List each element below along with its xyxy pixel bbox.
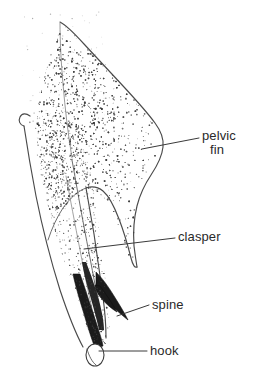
label-spine: spine [152, 297, 184, 312]
label-hook: hook [150, 343, 179, 358]
label-pelvic-fin-line2: fin [210, 142, 224, 157]
anatomical-diagram-svg: pelvic fin clasper spine hook [0, 0, 260, 382]
figure-background [0, 0, 260, 382]
label-pelvic-fin: pelvic [202, 128, 236, 143]
hook-shape [86, 344, 104, 366]
figure-container: pelvic fin clasper spine hook [0, 0, 260, 382]
label-clasper: clasper [178, 229, 221, 244]
